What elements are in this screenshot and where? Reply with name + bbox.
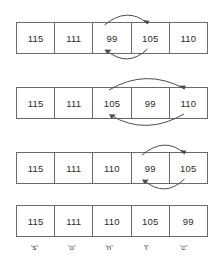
array-cell: 110 <box>169 23 207 54</box>
array-cell: 99 <box>131 153 169 184</box>
array-table-step-3: 115 111 110 99 105 <box>16 152 208 184</box>
array-cell: 105 <box>169 153 207 184</box>
array-cell: 115 <box>17 153 55 184</box>
char-label: 'c' <box>165 241 202 255</box>
table-row: 115 111 105 99 110 <box>17 88 208 119</box>
array-table-step-2: 115 111 105 99 110 <box>16 87 208 119</box>
array-row-step-2: 115 111 105 99 110 <box>16 87 202 117</box>
array-cell: 99 <box>169 206 207 237</box>
array-row-step-4: 115 111 110 105 99 <box>16 205 202 235</box>
table-row: 115 111 110 105 99 <box>17 206 208 237</box>
array-cell: 110 <box>93 206 131 237</box>
array-table-step-1: 115 111 99 105 110 <box>16 22 208 54</box>
array-cell: 105 <box>93 88 131 119</box>
array-cell: 99 <box>93 23 131 54</box>
array-cell: 115 <box>17 23 55 54</box>
array-cell: 111 <box>55 206 93 237</box>
array-table-step-4: 115 111 110 105 99 <box>16 205 208 237</box>
array-swap-diagram: 115 111 99 105 110 115 111 105 99 110 <box>0 0 218 265</box>
array-cell: 105 <box>131 206 169 237</box>
array-cell: 115 <box>17 206 55 237</box>
char-label: 'o' <box>53 241 90 255</box>
array-row-step-3: 115 111 110 99 105 <box>16 152 202 182</box>
array-cell: 110 <box>93 153 131 184</box>
table-row: 115 111 99 105 110 <box>17 23 208 54</box>
array-cell: 110 <box>169 88 207 119</box>
char-label: 'n' <box>90 241 127 255</box>
table-row: 115 111 110 99 105 <box>17 153 208 184</box>
array-cell: 111 <box>55 153 93 184</box>
array-cell: 111 <box>55 23 93 54</box>
char-label: 'i' <box>128 241 165 255</box>
char-label: 's' <box>16 241 53 255</box>
character-label-row: 's' 'o' 'n' 'i' 'c' <box>16 241 202 255</box>
array-cell: 99 <box>131 88 169 119</box>
array-cell: 105 <box>131 23 169 54</box>
array-cell: 115 <box>17 88 55 119</box>
array-cell: 111 <box>55 88 93 119</box>
array-row-step-1: 115 111 99 105 110 <box>16 22 202 52</box>
